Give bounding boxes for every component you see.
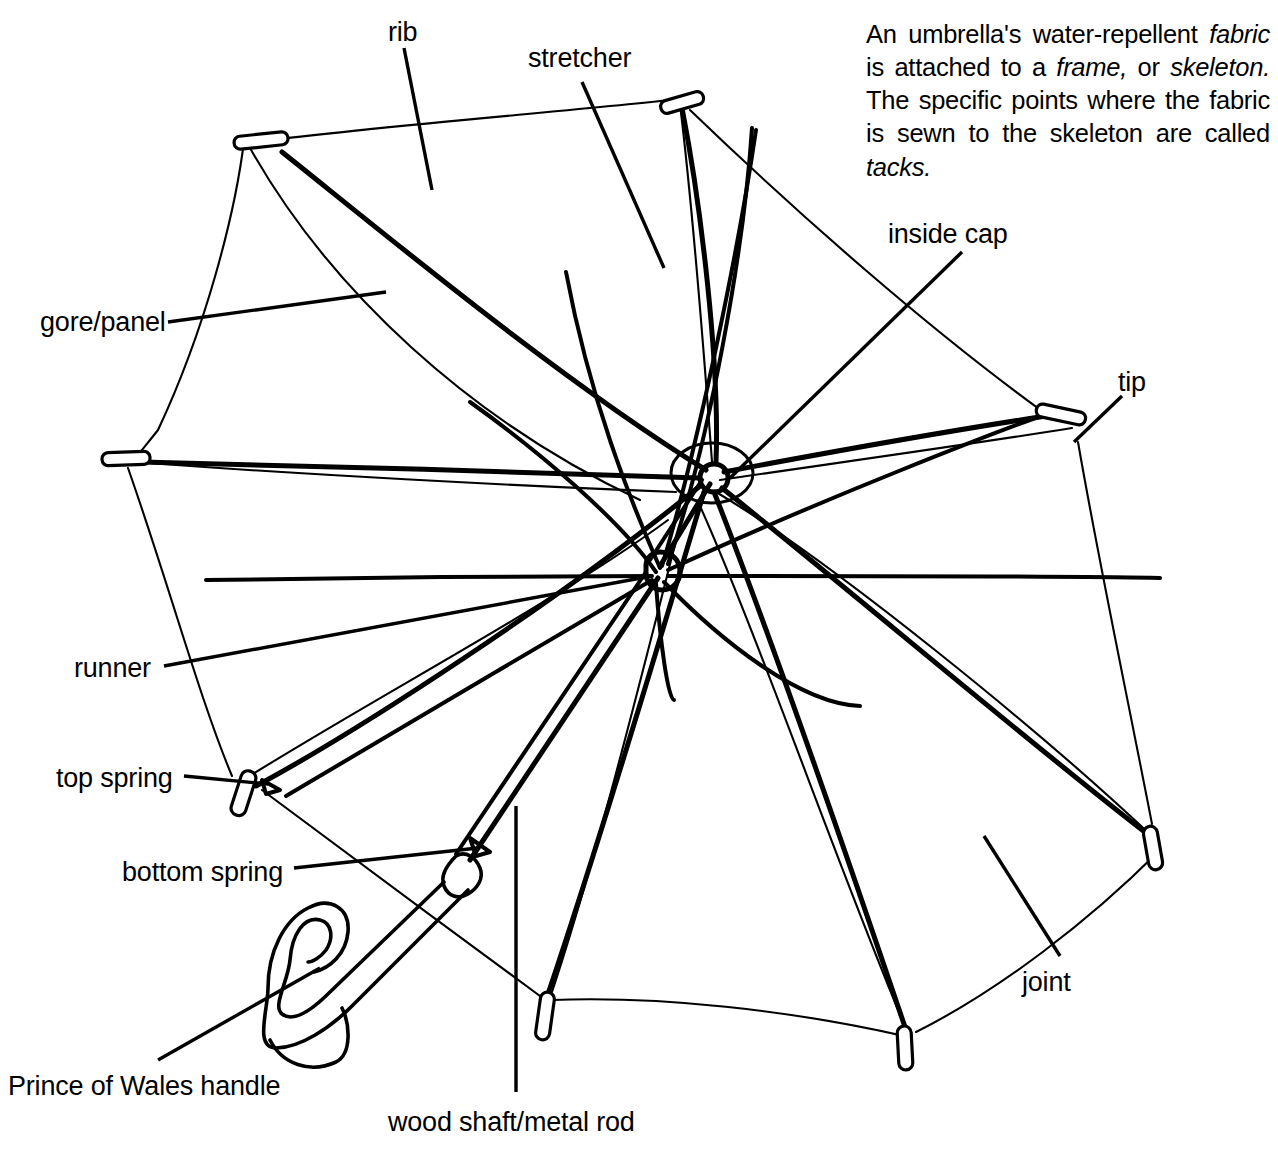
leader-joint	[984, 836, 1060, 956]
handle-group	[264, 854, 482, 1067]
canopy-edge-right	[1078, 442, 1152, 824]
rib-bottom	[714, 492, 906, 1030]
rib-bottom-right	[722, 488, 1150, 836]
canopy-edge-upper-left	[136, 141, 244, 458]
label-runner: runner	[74, 654, 151, 682]
umbrella-diagram: rib stretcher inside cap gore/panel tip …	[0, 0, 1278, 1154]
handle-outer-curve	[264, 890, 468, 1048]
canopy-edge-bottom	[552, 999, 904, 1036]
caption-text-run: The specific points where the fabric is …	[866, 86, 1270, 147]
gore-seam-5	[700, 506, 910, 1038]
leader-stretcher	[582, 82, 664, 268]
label-shaft: wood shaft/metal rod	[388, 1108, 635, 1136]
tip-left	[102, 451, 150, 466]
label-rib: rib	[388, 18, 417, 46]
label-tip: tip	[1118, 368, 1146, 396]
label-gore-panel: gore/panel	[40, 308, 166, 336]
caption-text: An umbrella's water-repellent fabric is …	[866, 18, 1270, 184]
tip-bottom	[897, 1026, 913, 1071]
tip-bottom-left	[535, 991, 556, 1040]
caption-italic-term: skeleton.	[1170, 53, 1270, 81]
stretcher-left	[206, 576, 652, 580]
stretcher-lower-left	[286, 580, 652, 796]
label-stretcher: stretcher	[528, 44, 631, 72]
tip-upper-left	[234, 131, 289, 150]
rib-upper-left	[282, 152, 706, 470]
caption-text-run: An umbrella's water-repellent	[866, 20, 1209, 48]
caption-italic-term: fabric	[1209, 20, 1270, 48]
leader-gore-panel	[168, 292, 386, 322]
gore-seam-1	[250, 148, 640, 500]
caption-text-run: or	[1127, 53, 1170, 81]
canopy-edge-bottom-right	[916, 852, 1158, 1032]
label-top-spring: top spring	[56, 764, 173, 792]
leader-handle	[158, 968, 320, 1060]
caption-italic-term: tacks.	[866, 153, 931, 181]
tip-right	[1035, 403, 1087, 426]
caption-italic-term: frame,	[1056, 53, 1127, 81]
label-inside-cap: inside cap	[888, 220, 1008, 248]
stretcher-bottom	[664, 582, 860, 706]
shaft-lower-edge	[456, 572, 646, 854]
caption-text-run: is attached to a	[866, 53, 1056, 81]
leader-rib	[404, 48, 432, 190]
stretcher-top	[662, 130, 756, 566]
canopy-edge-left-lower	[128, 468, 232, 776]
tip-lower-left	[229, 769, 257, 817]
label-handle: Prince of Wales handle	[8, 1072, 280, 1100]
canopy-edge-top	[254, 100, 670, 142]
stretcher-right	[668, 576, 1160, 578]
inside-cap-collar	[700, 464, 728, 492]
label-joint: joint	[1022, 968, 1071, 996]
leader-inside-cap	[730, 252, 962, 478]
handle-collar	[443, 854, 482, 897]
leader-line-group	[158, 48, 1122, 1092]
label-bottom-spring: bottom spring	[122, 858, 283, 886]
stretcher-group	[206, 128, 1160, 796]
rib-right	[724, 416, 1046, 472]
